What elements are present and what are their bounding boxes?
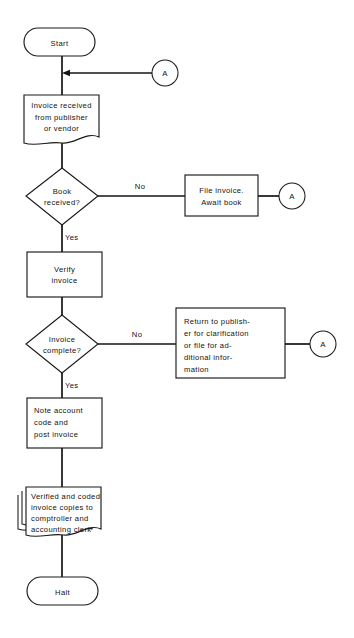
node-start[interactable]: Start [24,28,95,56]
arrowhead-into-trunk [62,70,70,76]
return-to-publisher-line-4: ditional infor- [184,353,233,362]
file-invoice-process-shape [185,175,258,216]
verified-copies-line-4: accounting clerk [31,525,91,534]
invoice-received-line-3: or vendor [44,124,79,133]
connector-a-book[interactable]: A [279,183,305,209]
invoice-received-line-1: Invoice received [31,101,91,110]
flowchart-canvas: Start A Invoice received from publisher … [0,0,354,638]
node-invoice-complete[interactable]: Invoice complete? [26,315,98,373]
verify-invoice-line-2: invoice [51,276,77,285]
book-received-line-2: received? [44,198,80,207]
invoice-complete-decision-shape [26,315,98,373]
note-account-line-1: Note account [34,406,83,415]
verified-copies-line-2: invoice copies to [31,503,93,512]
return-to-publisher-line-3: or file for ad- [184,341,232,350]
verify-invoice-line-1: Verify [54,265,75,274]
book-received-decision-shape [26,168,98,225]
edge-label-complete-no: No [132,330,142,339]
node-book-received[interactable]: Book received? [26,168,98,225]
halt-label: Halt [55,588,70,597]
invoice-complete-line-2: complete? [43,346,81,355]
note-account-line-3: post invoice [34,430,78,439]
note-account-line-2: code and [34,418,68,427]
return-to-publisher-line-2: er for clarification [184,329,249,338]
file-invoice-line-2: Await book [201,198,242,207]
return-to-publisher-line-5: mation [184,365,209,374]
verified-copies-line-1: Verified and coded [31,492,100,501]
node-note-account[interactable]: Note account code and post invoice [27,398,102,448]
connector-a-book-letter: A [289,192,295,201]
connector-a-top[interactable]: A [152,60,178,86]
start-label: Start [51,39,69,48]
connector-a-top-letter: A [162,69,168,78]
invoice-complete-line-1: Invoice [49,335,76,344]
node-halt[interactable]: Halt [27,577,98,605]
edge-label-book-yes: Yes [65,233,78,242]
node-file-invoice[interactable]: File invoice. Await book [185,175,258,216]
verified-copies-line-3: comptroller and [31,514,89,523]
return-to-publisher-line-1: Return to publish- [184,317,250,326]
connector-a-complete-letter: A [320,340,326,349]
invoice-received-line-2: from publisher [35,113,88,122]
node-verify-invoice[interactable]: Verify invoice [27,252,102,297]
book-received-line-1: Book [53,187,72,196]
verify-invoice-process-shape [27,252,102,297]
edge-label-book-no: No [135,182,145,191]
connector-a-complete[interactable]: A [310,331,336,357]
file-invoice-line-1: File invoice. [199,186,244,195]
node-invoice-received[interactable]: Invoice received from publisher or vendo… [24,95,99,144]
node-verified-copies[interactable]: Verified and coded invoice copies to com… [18,487,101,536]
flowchart-svg: Start A Invoice received from publisher … [0,0,354,638]
edge-label-complete-yes: Yes [65,381,78,390]
node-return-to-publisher[interactable]: Return to publish- er for clarification … [176,308,285,378]
